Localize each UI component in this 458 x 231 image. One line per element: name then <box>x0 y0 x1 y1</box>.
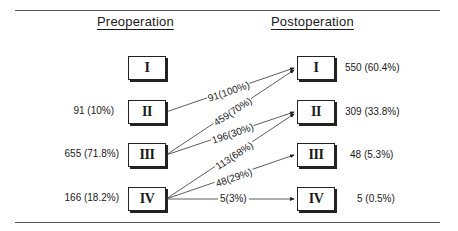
flow-iv-to-iv-label: 5(3%) <box>218 193 249 204</box>
bottom-rule <box>15 222 440 223</box>
